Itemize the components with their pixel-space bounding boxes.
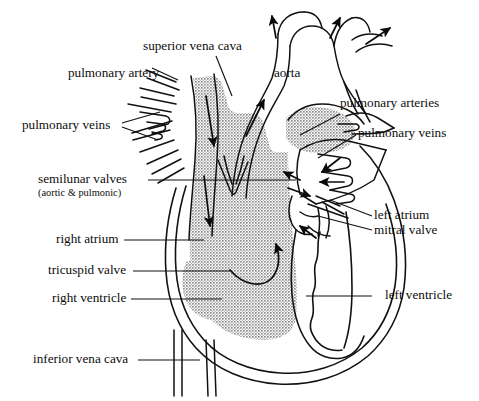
interventricular-septum (310, 232, 342, 351)
label-mitral-valve: mitral valve (374, 222, 437, 237)
arch-arrow-1 (272, 16, 276, 38)
label-pulmonary-veins-left: pulmonary veins (22, 117, 110, 132)
lv-free-wall-inner (344, 212, 352, 348)
leader-pulmonary-veins-left-a (122, 112, 160, 123)
pulmonary-vein-branch-d (140, 140, 174, 152)
heart-diagram: superior vena cava pulmonary artery pulm… (0, 0, 479, 401)
arch-branch-1-left (278, 12, 304, 34)
arch-arrow-2 (330, 18, 340, 38)
arch-branch-2-right (352, 18, 370, 32)
ivc-second-vessel-left (206, 340, 208, 396)
inferior-vena-cava-vessels (174, 330, 216, 396)
mitral-leaflet-a (300, 212, 318, 217)
label-semilunar-valves: semilunar valves (38, 171, 127, 186)
pv-cusp-2 (322, 172, 353, 190)
label-right-atrium: right atrium (56, 231, 119, 246)
pulmonary-artery-branch-d (141, 97, 176, 104)
pulmonary-artery-shading (286, 107, 355, 153)
label-pulmonary-veins-right: pulmonary veins (358, 125, 446, 140)
label-left-ventricle: left ventricle (385, 287, 452, 302)
pulmonary-vein-branch-g (158, 168, 184, 183)
left-atrium-floor (289, 196, 312, 235)
label-tricuspid-valve: tricuspid valve (48, 262, 126, 277)
pulmonary-vein-branch-e (147, 150, 178, 164)
label-pulmonary-artery: pulmonary artery (68, 65, 160, 80)
label-semilunar-valves-sub: (aortic & pulmonic) (38, 187, 121, 199)
ivc-second-vessel-right (214, 340, 216, 396)
label-inferior-vena-cava: inferior vena cava (33, 351, 128, 366)
heart-diagram-svg: superior vena cava pulmonary artery pulm… (0, 0, 479, 401)
label-superior-vena-cava: superior vena cava (143, 38, 242, 53)
arch-branch-2-left (334, 18, 352, 46)
pv-wedge-left-edge (297, 150, 316, 204)
mitral-flow-arrow (300, 226, 316, 238)
label-left-atrium: left atrium (374, 207, 430, 222)
arch-branch-3-right (356, 44, 392, 52)
pulmonary-artery-branch-c (140, 88, 174, 96)
label-pulmonary-arteries-right: pulmonary arteries (340, 95, 439, 110)
leader-mitral-valve (318, 216, 372, 230)
label-aorta: aorta (274, 65, 301, 80)
lv-cavity-outline (291, 230, 364, 359)
left-pulmonary-vessel-branches (128, 70, 184, 183)
pulmonary-vein-branch-a (128, 104, 171, 112)
label-right-ventricle: right ventricle (52, 290, 126, 305)
